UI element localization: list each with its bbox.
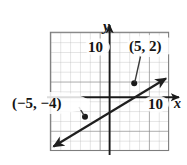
point-label-5-2: (5, 2) [129,39,162,54]
x-axis-tick-label-10: 10 [148,97,163,112]
graph-canvas [0,0,187,165]
coordinate-plane-figure: y x 10 10 (5, 2) (−5, −4) [0,0,187,165]
data-point-5-2 [131,80,137,86]
x-axis-label: x [174,97,181,111]
y-axis-tick-label-10: 10 [88,40,103,55]
y-axis-label: y [103,19,110,34]
point-label-neg5-neg4: (−5, −4) [12,96,62,111]
